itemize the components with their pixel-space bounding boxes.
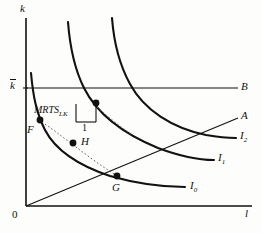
point-label-h: H <box>81 136 89 147</box>
point-marker-h <box>70 140 77 147</box>
point-marker-tangency <box>93 100 100 107</box>
isoquant-i0-sub: 0 <box>194 186 198 194</box>
line-b-label: B <box>241 81 248 92</box>
mrts-text: MRTS <box>34 104 59 115</box>
origin-label: 0 <box>12 209 18 220</box>
isoquant-figure: k k 0 l MRTSLK 1 B A I2 I1 I0 F H G <box>0 0 262 233</box>
isoquant-i2-sub: 2 <box>244 136 248 144</box>
point-marker-g <box>114 173 121 180</box>
isoquant-curve-i2 <box>112 18 236 138</box>
isoquant-label-i2: I2 <box>240 130 247 144</box>
kbar-overline-glyph: k <box>10 80 15 91</box>
kbar-label: k <box>10 80 15 91</box>
line-a-label: A <box>241 110 248 121</box>
mrts-label: MRTSLK <box>34 105 68 118</box>
isoquant-i1-sub: 1 <box>222 158 226 166</box>
mrts-subscript: LK <box>59 110 68 118</box>
run-label-one: 1 <box>82 123 87 133</box>
isoquant-curve-i0 <box>31 73 185 187</box>
isoquant-curve-i1 <box>68 22 214 160</box>
point-label-g: G <box>112 182 120 193</box>
dashed-chord-t-downright <box>97 107 132 135</box>
isoquant-label-i1: I1 <box>218 152 225 166</box>
dashed-chord-f-g <box>42 122 114 174</box>
y-axis-label: k <box>20 3 25 14</box>
line-a-ray <box>26 118 238 206</box>
point-label-f: F <box>27 124 34 135</box>
isoquant-label-i0: I0 <box>190 180 197 194</box>
x-axis-label: l <box>245 208 248 219</box>
